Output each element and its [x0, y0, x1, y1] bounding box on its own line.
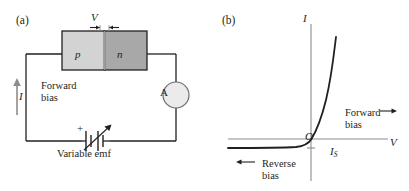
battery-polarity-label: + [77, 122, 83, 134]
forward-bias-circuit-label: Forward bias [41, 80, 77, 104]
panel-b-iv-chart [228, 24, 397, 181]
forward-bias-arrow-head [392, 109, 398, 114]
origin-label: O [305, 130, 313, 142]
variable-emf-caption: Variable emf [57, 148, 111, 160]
panel-label-a: (a) [16, 14, 29, 26]
reverse-bias-region-label: Reverse bias [262, 158, 296, 182]
reverse-region-line2: bias [262, 170, 279, 181]
forward-region-line1: Forward [345, 107, 381, 118]
variability-arrow-shaft [84, 126, 110, 150]
n-region-label: n [117, 48, 123, 60]
forward-bias-region-label: Forward bias [345, 107, 381, 131]
current-arrow-head [13, 78, 21, 86]
axis-label-current: I [303, 12, 307, 24]
p-region-block [62, 31, 105, 70]
ammeter-label: A [160, 86, 168, 98]
reverse-bias-arrow-head [236, 160, 242, 165]
diode-iv-curve [228, 37, 336, 148]
forward-region-line2: bias [345, 119, 362, 130]
saturation-current-subscript: S [334, 150, 338, 159]
axis-label-voltage: V [390, 136, 397, 148]
v-arrow-left-head [96, 26, 100, 30]
p-region-label: p [75, 48, 81, 60]
junction-voltage-label: V [91, 11, 98, 23]
saturation-current-label: IS [330, 145, 337, 161]
panel-label-b: (b) [222, 14, 235, 26]
forward-bias-line2: bias [41, 92, 58, 103]
v-arrow-right-head [109, 26, 113, 30]
reverse-region-line1: Reverse [262, 158, 296, 169]
n-region-block [105, 31, 148, 70]
forward-bias-line1: Forward [41, 80, 77, 91]
circuit-current-label: I [19, 90, 23, 102]
